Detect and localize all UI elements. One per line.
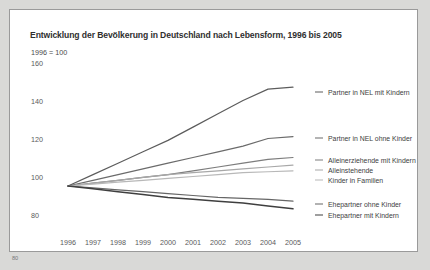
legend-item-label: Kinder in Familien (328, 177, 383, 184)
legend-item-label: Ehepartner mit Kindern (328, 212, 399, 219)
x-axis-tick-label: 2001 (185, 238, 201, 247)
x-axis-tick-label: 1999 (135, 238, 151, 247)
legend-item-label: Ehepartner ohne Kinder (328, 201, 401, 208)
y-axis-tick-label: 80 (31, 211, 39, 220)
legend-line-swatch (315, 92, 323, 93)
legend-item-label: Alleinerziehende mit Kindern (328, 157, 416, 164)
y-axis-tick-label: 140 (31, 97, 43, 106)
series-line (68, 186, 293, 209)
chart-panel: Entwicklung der Bevölkerung in Deutschla… (9, 9, 418, 252)
y-axis-tick-label: 120 (31, 135, 43, 144)
series-line (68, 87, 293, 186)
x-axis-tick-label: 1996 (60, 238, 76, 247)
legend-line-swatch (315, 180, 323, 181)
legend-item-label: Partner in NEL mit Kindern (328, 89, 410, 96)
legend-line-swatch (315, 170, 323, 171)
legend-line-swatch (315, 160, 323, 161)
y-axis-tick-label: 160 (31, 59, 43, 68)
figure-canvas: Entwicklung der Bevölkerung in Deutschla… (0, 0, 430, 270)
x-axis-tick-label: 2003 (235, 238, 251, 247)
x-axis-tick-label: 2002 (210, 238, 226, 247)
legend-line-swatch (315, 138, 323, 139)
legend-line-swatch (315, 204, 323, 205)
x-axis-tick-label: 1998 (110, 238, 126, 247)
y-axis-tick-label: 100 (31, 173, 43, 182)
legend-item-label: Alleinstehende (328, 167, 373, 174)
x-axis-tick-label: 2005 (285, 238, 301, 247)
legend-line-swatch (315, 215, 323, 216)
x-axis-tick-label: 2000 (160, 238, 176, 247)
legend-item-label: Partner in NEL ohne Kinder (328, 135, 412, 142)
page-number: 80 (12, 255, 18, 261)
x-axis-tick-label: 1997 (85, 238, 101, 247)
x-axis-tick-label: 2004 (260, 238, 276, 247)
